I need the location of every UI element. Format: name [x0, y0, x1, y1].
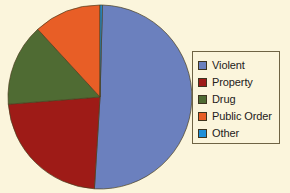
legend-item-property: Property — [198, 74, 279, 91]
legend-swatch-icon — [198, 78, 207, 87]
legend-item-label: Public Order — [212, 111, 272, 122]
pie-chart-figure: ViolentPropertyDrugPublic OrderOther — [0, 0, 290, 193]
legend-item-other: Other — [198, 125, 279, 142]
legend-item-label: Violent — [212, 60, 245, 71]
legend-swatch-icon — [198, 95, 207, 104]
chart-legend: ViolentPropertyDrugPublic OrderOther — [192, 51, 280, 144]
legend-item-violent: Violent — [198, 57, 279, 74]
legend-swatch-icon — [198, 129, 207, 138]
pie-slice-property — [8, 97, 100, 189]
legend-swatch-icon — [198, 61, 207, 70]
legend-item-label: Other — [212, 128, 239, 139]
pie-slice-group — [8, 5, 192, 189]
pie-slice-violent — [94, 5, 192, 189]
legend-item-drug: Drug — [198, 91, 279, 108]
legend-item-label: Property — [212, 77, 253, 88]
legend-swatch-icon — [198, 112, 207, 121]
legend-item-public-order: Public Order — [198, 108, 279, 125]
legend-item-label: Drug — [212, 94, 235, 105]
